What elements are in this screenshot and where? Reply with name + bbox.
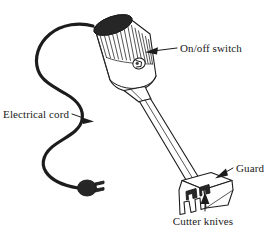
callout-guard: Guard <box>215 162 264 179</box>
guard-label: Guard <box>236 162 264 174</box>
hand-blender-diagram: On/off switch Electrical cord Guard Cutt… <box>0 0 276 234</box>
guard-group <box>179 173 233 215</box>
electrical-cord-path <box>37 24 94 188</box>
electrical-cord-leader <box>72 114 82 118</box>
shaft-group <box>140 99 200 182</box>
electrical-cord-label: Electrical cord <box>3 108 69 120</box>
on-off-switch-leader <box>157 48 177 51</box>
electrical-cord-arrowhead <box>81 117 94 124</box>
cutter-knives-label: Cutter knives <box>173 215 233 227</box>
callout-on-off-switch: On/off switch <box>145 42 242 54</box>
guard-arrowhead <box>215 169 228 179</box>
blender-illustration: On/off switch Electrical cord Guard Cutt… <box>0 0 276 234</box>
on-off-switch-dot <box>136 62 139 65</box>
shaft-center-line <box>145 100 194 180</box>
guard-leader <box>226 168 233 172</box>
motor-body-group <box>91 10 156 102</box>
on-off-switch-label: On/off switch <box>180 42 242 54</box>
